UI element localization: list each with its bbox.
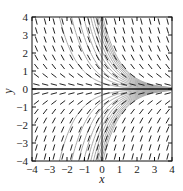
slope-segment (53, 36, 55, 42)
slope-segment (53, 135, 55, 141)
slope-segment (149, 127, 152, 133)
slope-segment (77, 93, 83, 95)
slope-segment (70, 135, 72, 141)
slope-segment (87, 55, 90, 61)
slope-segment (166, 118, 169, 124)
slope-segment (52, 64, 56, 69)
slope-segment (167, 153, 169, 159)
slope-segment (165, 101, 170, 105)
y-tick-label: −2 (16, 119, 28, 131)
slope-segment (140, 144, 142, 150)
slope-segment (123, 127, 126, 133)
slope-segment (131, 46, 134, 52)
slope-segment (139, 101, 144, 105)
slope-segment (158, 36, 160, 42)
slope-segment (132, 36, 134, 42)
slope-segment (166, 46, 169, 52)
slope-segment (44, 18, 46, 24)
slope-segment (51, 93, 57, 95)
slope-segment (156, 93, 162, 95)
slope-segment (79, 36, 81, 42)
slope-segment (149, 153, 151, 159)
slope-segment (60, 101, 65, 105)
slope-segment (166, 55, 169, 61)
slope-segment (60, 93, 66, 95)
x-axis-label: x (98, 172, 105, 186)
slope-segment (148, 101, 153, 105)
slope-segment (79, 135, 81, 141)
slope-segment (157, 118, 160, 124)
slope-segment (167, 27, 169, 33)
slope-segment (86, 74, 91, 78)
slope-segment (141, 18, 143, 24)
slope-segment (88, 46, 91, 52)
slope-segment (69, 74, 74, 78)
slope-segment (52, 55, 55, 61)
slope-segment (44, 135, 46, 141)
slope-segment (166, 64, 170, 69)
y-tick-label: 0 (23, 83, 29, 95)
slope-segment (157, 64, 161, 69)
slope-segment (43, 101, 48, 105)
y-tick-label: 1 (23, 65, 29, 77)
slope-segment (131, 118, 134, 124)
slope-segment (139, 74, 144, 78)
slope-segment (158, 18, 160, 24)
slope-segment (78, 74, 83, 78)
slope-segment (51, 84, 57, 86)
y-tick-label: −1 (16, 101, 28, 113)
slope-segment (158, 135, 160, 141)
slope-segment (131, 64, 135, 69)
slope-segment (68, 84, 74, 86)
slope-segment (70, 144, 72, 150)
slope-segment (149, 36, 151, 42)
slope-segment (158, 27, 160, 33)
slope-segment (77, 84, 83, 86)
slope-segment (167, 144, 169, 150)
slope-segment (79, 27, 81, 33)
slope-segment (96, 55, 99, 61)
slope-segment (165, 93, 171, 95)
slope-segment (60, 84, 66, 86)
x-tick-label: 3 (152, 163, 158, 175)
slope-segment (165, 84, 171, 86)
slope-segment (132, 135, 134, 141)
slope-segment (53, 27, 55, 33)
y-tick-label: 4 (23, 11, 29, 23)
y-tick-label: 3 (23, 29, 29, 41)
slope-segment (61, 109, 65, 114)
slope-segment (33, 93, 39, 95)
slope-segment (156, 101, 161, 105)
slope-segment (140, 36, 142, 42)
slope-segment (68, 93, 74, 95)
slope-segment (44, 118, 47, 124)
slope-segment (44, 36, 46, 42)
slope-segment (123, 153, 125, 159)
slope-segment (34, 109, 38, 114)
slope-segment (132, 144, 134, 150)
slope-segment (35, 135, 37, 141)
slope-segment (106, 18, 108, 24)
slope-segment (123, 36, 125, 42)
slope-segment (52, 109, 56, 114)
slope-segment (86, 101, 91, 105)
slope-segment (36, 153, 38, 159)
slope-segment (52, 118, 55, 124)
slope-segment (132, 27, 134, 33)
slope-segment (166, 109, 170, 114)
slope-segment (96, 127, 99, 133)
slope-segment (149, 55, 152, 61)
slope-segment (149, 144, 151, 150)
slope-segment (114, 144, 116, 150)
y-tick-label: −3 (16, 137, 28, 149)
slope-segment (35, 144, 37, 150)
slope-segment (53, 46, 56, 52)
slope-segment (165, 74, 170, 78)
slope-segment (88, 127, 91, 133)
slope-segment (149, 118, 152, 124)
slope-segment (35, 118, 38, 124)
slope-segment (35, 36, 37, 42)
slope-segment (34, 74, 39, 78)
slope-segment (149, 46, 152, 52)
slope-segment (69, 109, 73, 114)
